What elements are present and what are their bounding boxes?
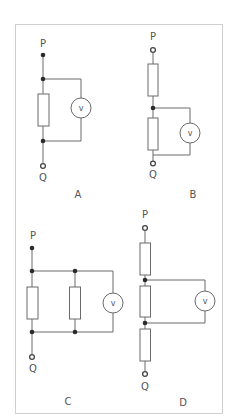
circuit-d: P v Q D xyxy=(140,209,215,408)
resistor xyxy=(140,329,151,361)
junction-dot xyxy=(143,321,148,326)
circuit-diagram-figure: P v Q A P v Q B P xyxy=(0,0,235,420)
voltmeter-symbol: v xyxy=(111,299,116,308)
junction-dot xyxy=(30,246,35,251)
resistor xyxy=(70,287,81,319)
terminal-p-label: P xyxy=(30,230,36,241)
terminal-q-label: Q xyxy=(29,363,37,374)
junction-dot xyxy=(41,77,46,82)
open-terminal-icon xyxy=(151,48,156,53)
junction-dot xyxy=(30,330,35,335)
circuit-b: P v Q B xyxy=(148,31,200,200)
junction-dot xyxy=(143,278,148,283)
junction-dot xyxy=(41,53,46,58)
terminal-p-label: P xyxy=(150,31,156,42)
voltmeter-symbol: v xyxy=(188,129,193,138)
voltmeter-symbol: v xyxy=(79,104,84,113)
resistor xyxy=(148,64,158,96)
terminal-p-label: P xyxy=(40,38,46,49)
voltmeter-symbol: v xyxy=(203,297,208,306)
resistor xyxy=(27,287,38,319)
open-terminal-icon xyxy=(151,161,156,166)
terminal-q-label: Q xyxy=(141,381,149,392)
terminal-q-label: Q xyxy=(149,169,157,180)
junction-dot xyxy=(151,106,156,111)
resistor xyxy=(38,94,49,126)
open-terminal-icon xyxy=(143,226,148,231)
junction-dot xyxy=(30,269,35,274)
terminal-p-label: P xyxy=(142,209,148,220)
resistor xyxy=(140,243,151,275)
circuit-diagram-svg: P v Q A P v Q B P xyxy=(0,0,235,420)
junction-dot xyxy=(73,330,78,335)
open-terminal-icon xyxy=(30,355,35,360)
open-terminal-icon xyxy=(143,372,148,377)
open-terminal-icon xyxy=(41,164,46,169)
circuit-a: P v Q A xyxy=(38,38,91,200)
circuit-caption: B xyxy=(190,189,197,200)
resistor xyxy=(148,118,158,150)
circuit-caption: D xyxy=(179,397,187,408)
junction-dot xyxy=(41,139,46,144)
figure-frame xyxy=(16,25,223,414)
resistor xyxy=(140,286,151,317)
terminal-q-label: Q xyxy=(39,172,47,183)
junction-dot xyxy=(73,269,78,274)
circuit-caption: C xyxy=(65,396,72,407)
circuit-caption: A xyxy=(75,189,82,200)
circuit-c: P v Q C xyxy=(27,230,123,407)
